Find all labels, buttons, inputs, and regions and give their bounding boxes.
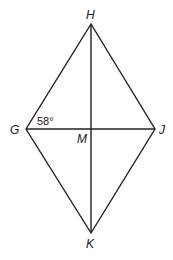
vertex-label-j: J bbox=[158, 123, 166, 137]
rhombus-diagram: H G J K M 58° bbox=[0, 0, 173, 260]
vertex-label-m: M bbox=[77, 132, 87, 146]
vertex-label-k: K bbox=[86, 237, 95, 251]
angle-label-g: 58° bbox=[37, 115, 54, 127]
vertex-label-h: H bbox=[86, 8, 95, 22]
vertex-label-g: G bbox=[10, 123, 19, 137]
